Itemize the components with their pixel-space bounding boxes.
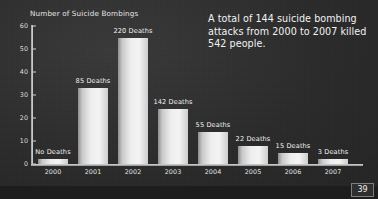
bar-value-label: 22 Deaths	[236, 135, 271, 143]
y-tick-label: 20	[0, 114, 28, 122]
x-tick-label: 2001	[73, 168, 113, 176]
bar-value-label: 55 Deaths	[196, 121, 231, 129]
y-tick-label: 40	[0, 68, 28, 76]
annotation-text: A total of 144 suicide bombing attacks f…	[208, 13, 368, 51]
y-tick-label: 60	[0, 22, 28, 30]
y-tick-mark	[33, 26, 36, 27]
slide-canvas: Number of Suicide Bombings 0102030405060…	[0, 0, 378, 199]
y-tick-label: 50	[0, 45, 28, 53]
y-tick-label: 0	[0, 160, 28, 168]
bar-value-label: 85 Deaths	[76, 77, 111, 85]
bar-value-label: 142 Deaths	[153, 98, 192, 106]
bar	[198, 132, 228, 164]
x-tick-label: 2004	[193, 168, 233, 176]
bar	[118, 38, 148, 165]
bar	[78, 88, 108, 164]
x-tick-label: 2006	[273, 168, 313, 176]
x-tick-label: 2003	[153, 168, 193, 176]
y-tick-mark	[33, 118, 36, 119]
page-number-badge: 39	[351, 183, 374, 197]
bar	[38, 159, 68, 164]
bar-value-label: 3 Deaths	[318, 148, 348, 156]
bar-value-label: 220 Deaths	[113, 27, 152, 35]
bar	[318, 159, 348, 164]
bar-value-label: No Deaths	[35, 148, 70, 156]
bar	[238, 146, 268, 164]
bar-value-label: 15 Deaths	[276, 142, 311, 150]
y-tick-label: 10	[0, 137, 28, 145]
y-tick-label: 30	[0, 91, 28, 99]
bar	[278, 153, 308, 165]
x-tick-label: 2002	[113, 168, 153, 176]
x-tick-label: 2007	[313, 168, 353, 176]
x-tick-label: 2000	[33, 168, 73, 176]
x-tick-label: 2005	[233, 168, 273, 176]
bar	[158, 109, 188, 164]
y-tick-mark	[33, 49, 36, 50]
y-tick-mark	[33, 141, 36, 142]
y-tick-mark	[33, 164, 36, 165]
y-tick-mark	[33, 95, 36, 96]
y-tick-mark	[33, 72, 36, 73]
x-axis-line	[31, 164, 363, 166]
bottom-strip	[0, 186, 378, 199]
